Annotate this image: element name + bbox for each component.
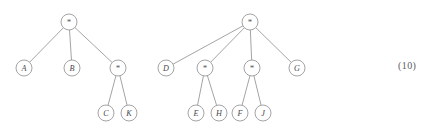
tree-edge <box>30 28 64 63</box>
tree-node-operator: * <box>242 14 258 30</box>
node-label: J <box>261 109 265 118</box>
tree-edge <box>75 27 112 62</box>
figure-container: *AB*CK*D**GEHFJ (10) <box>0 0 439 128</box>
tree-edge <box>198 76 204 105</box>
node-label: * <box>248 17 253 27</box>
tree-node-J: J <box>255 105 271 121</box>
equation-number: (10) <box>398 60 416 71</box>
tree-node-H: H <box>211 105 227 121</box>
tree-node-operator: * <box>244 60 260 76</box>
tree-left: *AB*CK <box>16 14 137 121</box>
node-label: G <box>294 64 300 73</box>
node-label: A <box>20 64 27 73</box>
tree-diagram-canvas: *AB*CK*D**GEHFJ <box>0 0 439 128</box>
tree-edge <box>250 30 251 60</box>
node-label: * <box>67 17 72 27</box>
node-label: K <box>125 109 132 118</box>
tree-node-E: E <box>188 105 204 121</box>
node-label: F <box>236 109 243 118</box>
node-label: H <box>215 109 223 118</box>
node-label: B <box>69 64 74 73</box>
tree-node-K: K <box>121 105 137 121</box>
tree-node-operator: * <box>61 14 77 30</box>
node-label: * <box>250 63 255 73</box>
tree-node-operator: * <box>197 60 213 76</box>
tree-edge <box>120 76 127 105</box>
node-label: E <box>192 109 198 118</box>
tree-node-D: D <box>158 60 174 76</box>
tree-node-C: C <box>98 105 114 121</box>
tree-right: *D**GEHFJ <box>158 14 305 121</box>
tree-edge <box>256 28 292 63</box>
tree-edge <box>70 30 72 60</box>
tree-node-A: A <box>16 60 32 76</box>
tree-node-F: F <box>232 105 248 121</box>
node-label: * <box>203 63 208 73</box>
tree-node-B: B <box>64 60 80 76</box>
tree-edge <box>242 76 250 106</box>
tree-edge <box>254 76 261 105</box>
node-label: D <box>162 64 169 73</box>
node-label: * <box>116 63 121 73</box>
tree-edge <box>207 76 216 106</box>
node-label: C <box>103 109 109 118</box>
tree-node-G: G <box>289 60 305 76</box>
tree-edge <box>173 26 243 64</box>
tree-node-operator: * <box>110 60 126 76</box>
tree-edge <box>211 28 245 63</box>
tree-edge <box>108 76 116 106</box>
